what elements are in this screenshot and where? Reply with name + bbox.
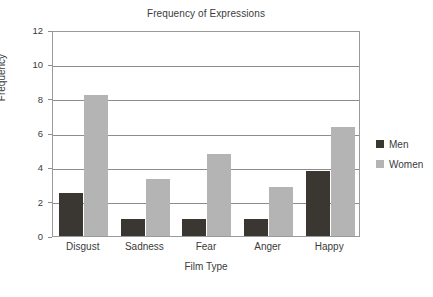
- x-axis-tick-label: Happy: [298, 241, 360, 252]
- y-axis-tick-label: 0: [3, 232, 43, 242]
- y-axis-tick-label: 4: [3, 163, 43, 173]
- bar-fear-men: [182, 219, 206, 236]
- legend-entry-men[interactable]: Men: [376, 136, 432, 152]
- y-axis-tick-label: 2: [3, 198, 43, 208]
- chart-legend: MenWomen: [376, 136, 432, 176]
- y-axis-tick-label: 12: [3, 26, 43, 36]
- x-axis-tick-label: Anger: [237, 241, 299, 252]
- x-axis-tick-label: Fear: [175, 241, 237, 252]
- bar-sadness-men: [121, 219, 145, 236]
- bar-disgust-women: [84, 95, 108, 236]
- plot-area: [52, 31, 360, 237]
- legend-swatch-icon: [376, 160, 384, 168]
- legend-label: Women: [389, 159, 423, 170]
- bar-group: [176, 32, 238, 236]
- bar-happy-women: [331, 127, 355, 236]
- bar-fear-women: [207, 154, 231, 236]
- bar-sadness-women: [146, 179, 170, 236]
- bar-anger-women: [269, 187, 293, 236]
- bar-group: [238, 32, 300, 236]
- legend-label: Men: [389, 139, 408, 150]
- bar-anger-men: [244, 219, 268, 236]
- y-axis-tick-label: 10: [3, 60, 43, 70]
- bar-group: [115, 32, 177, 236]
- bars-layer: [53, 32, 359, 236]
- bar-chart-figure: Frequency of Expressions Frequency 02468…: [0, 0, 433, 297]
- y-axis-tick-label: 8: [3, 95, 43, 105]
- bar-happy-men: [306, 171, 330, 236]
- x-axis-tick-label: Sadness: [114, 241, 176, 252]
- x-axis-tick-label: Disgust: [52, 241, 114, 252]
- bar-disgust-men: [59, 193, 83, 236]
- legend-entry-women[interactable]: Women: [376, 156, 432, 172]
- bar-group: [299, 32, 361, 236]
- bar-group: [53, 32, 115, 236]
- chart-title: Frequency of Expressions: [52, 8, 360, 19]
- x-axis-title: Film Type: [52, 261, 360, 272]
- y-axis-tick-label: 6: [3, 129, 43, 139]
- legend-swatch-icon: [376, 140, 384, 148]
